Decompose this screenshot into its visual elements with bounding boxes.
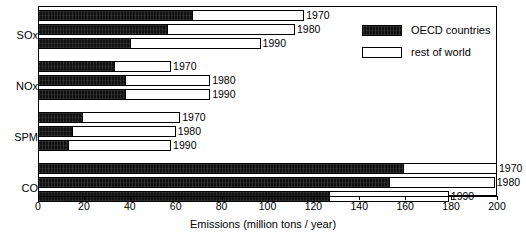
legend: OECD countries rest of world (362, 24, 492, 68)
x-tick-label-200: 200 (482, 201, 512, 212)
x-tick-label-20: 20 (69, 201, 99, 212)
bar-year-label-nox-1970: 1970 (171, 61, 196, 72)
bar-year-label-spm-1980: 1980 (176, 126, 201, 137)
bar-year-label-co-1970: 1970 (497, 163, 522, 174)
category-label-sox: SOx (2, 30, 38, 41)
legend-label-oecd: OECD countries (411, 24, 490, 36)
category-label-co: CO (2, 183, 38, 194)
bar-segment-oecd (38, 89, 125, 100)
category-label-nox: NOx (2, 81, 38, 92)
bar-year-label-nox-1990: 1990 (210, 89, 235, 100)
category-label-spm: SPM (2, 132, 38, 143)
bar-segment-oecd (38, 140, 68, 151)
bar-segment-rest-of-world (82, 112, 181, 123)
bar-segment-oecd (38, 177, 389, 188)
bar-segment-oecd (38, 61, 114, 72)
bar-segment-oecd (38, 75, 125, 86)
x-tick-label-120: 120 (298, 201, 328, 212)
legend-swatch-oecd-icon (362, 25, 402, 36)
bar-segment-rest-of-world (167, 24, 296, 35)
category-axis-labels: SOxNOxSPMCO (0, 6, 38, 196)
emissions-bar-chart: SOxNOxSPMCO 1970198019901970198019901970… (0, 0, 526, 240)
bar-year-label-sox-1980: 1980 (295, 24, 320, 35)
bar-sox-1970 (38, 10, 304, 21)
bar-segment-rest-of-world (68, 140, 171, 151)
bar-segment-oecd (38, 112, 82, 123)
bar-year-label-spm-1990: 1990 (171, 140, 196, 151)
bar-year-label-sox-1970: 1970 (304, 10, 329, 21)
x-tick-label-140: 140 (344, 201, 374, 212)
x-tick-label-80: 80 (207, 201, 237, 212)
legend-label-rest-of-world: rest of world (411, 46, 471, 58)
bar-segment-rest-of-world (114, 61, 171, 72)
bar-year-label-co-1980: 1980 (495, 177, 520, 188)
legend-item-rest-of-world: rest of world (362, 46, 492, 58)
x-tick-label-100: 100 (253, 201, 283, 212)
bar-sox-1980 (38, 24, 295, 35)
x-tick-label-40: 40 (115, 201, 145, 212)
bar-segment-oecd (38, 10, 192, 21)
bar-co-1970 (38, 163, 497, 174)
x-axis-title: Emissions (million tons / year) (0, 218, 526, 230)
bar-nox-1980 (38, 75, 210, 86)
bar-year-label-sox-1990: 1990 (261, 38, 286, 49)
bar-segment-rest-of-world (192, 10, 304, 21)
bar-segment-rest-of-world (130, 38, 261, 49)
bar-sox-1990 (38, 38, 261, 49)
bar-year-label-nox-1980: 1980 (210, 75, 235, 86)
bar-nox-1970 (38, 61, 171, 72)
x-tick-label-60: 60 (161, 201, 191, 212)
bar-year-label-spm-1970: 1970 (180, 112, 205, 123)
bar-segment-rest-of-world (72, 126, 175, 137)
x-tick-label-180: 180 (436, 201, 466, 212)
x-tick-label-0: 0 (23, 201, 53, 212)
bar-segment-oecd (38, 163, 403, 174)
bar-segment-rest-of-world (125, 89, 210, 100)
bar-segment-oecd (38, 126, 72, 137)
legend-swatch-rest-of-world-icon (362, 47, 402, 58)
legend-item-oecd: OECD countries (362, 24, 492, 36)
bar-spm-1980 (38, 126, 176, 137)
bar-segment-rest-of-world (403, 163, 497, 174)
bar-co-1980 (38, 177, 495, 188)
bar-segment-oecd (38, 24, 167, 35)
bar-segment-rest-of-world (125, 75, 210, 86)
x-tick-label-160: 160 (390, 201, 420, 212)
bar-segment-rest-of-world (389, 177, 495, 188)
bar-segment-oecd (38, 38, 130, 49)
bar-spm-1990 (38, 140, 171, 151)
bar-nox-1990 (38, 89, 210, 100)
bar-spm-1970 (38, 112, 180, 123)
